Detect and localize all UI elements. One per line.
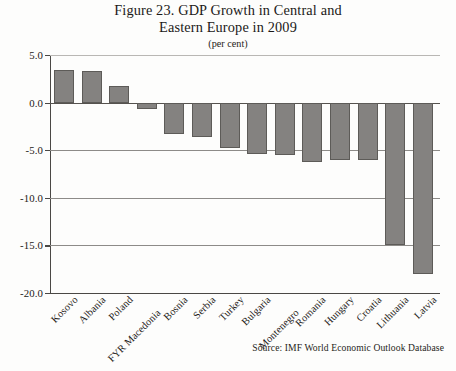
- y-axis-tickmark: [45, 55, 50, 56]
- gridline-5-0: [50, 55, 440, 56]
- bar-romania: [302, 103, 322, 162]
- y-axis-tickmark: [45, 150, 50, 151]
- figure-subtitle: (per cent): [0, 37, 456, 51]
- bar-bulgaria: [247, 103, 267, 154]
- y-axis-line: [50, 55, 51, 293]
- y-axis-tickmark: [45, 198, 50, 199]
- source-note: Source: IMF World Economic Outlook Datab…: [252, 342, 444, 353]
- page-title-line-1: Figure 23. GDP Growth in Central and: [0, 2, 456, 19]
- bar-serbia: [192, 103, 212, 137]
- x-axis-label-serbia: Serbia: [191, 294, 218, 321]
- y-axis-tickmark: [45, 245, 50, 246]
- x-axis-label-albania: Albania: [76, 294, 107, 325]
- gridline--15-0: [50, 245, 440, 246]
- y-axis-tick-label: 5.0: [29, 49, 43, 61]
- plot-area: 5.00.0-5.0-10.0-15.0-20.0: [50, 55, 440, 293]
- bar-croatia: [358, 103, 378, 160]
- y-axis-tick-label: -10.0: [20, 192, 43, 204]
- bar-poland: [109, 86, 129, 102]
- gridline--5-0: [50, 150, 440, 151]
- bar-albania: [82, 71, 102, 102]
- x-axis-label-latvia: Latvia: [412, 294, 439, 321]
- bar-kosovo: [54, 70, 74, 102]
- x-axis-label-bosnia: Bosnia: [162, 294, 190, 322]
- x-axis-label-bulgaria: Bulgaria: [240, 294, 273, 327]
- y-axis-tick-label: -20.0: [20, 287, 43, 299]
- bar-bosnia: [164, 103, 184, 134]
- figure-title-block: Figure 23. GDP Growth in Central and Eas…: [0, 2, 456, 51]
- bar-lithuania: [385, 103, 405, 246]
- y-axis-tick-label: -5.0: [26, 144, 44, 156]
- x-axis-label-kosovo: Kosovo: [49, 294, 80, 325]
- x-axis-label-poland: Poland: [107, 294, 135, 322]
- figure-container: Figure 23. GDP Growth in Central and Eas…: [0, 0, 456, 371]
- y-axis-tick-label: 0.0: [29, 97, 43, 109]
- gridline--10-0: [50, 198, 440, 199]
- bar-turkey: [220, 103, 240, 149]
- bar-hungary: [330, 103, 350, 160]
- x-axis-label-hungary: Hungary: [322, 294, 356, 328]
- bar-montenegro: [275, 103, 295, 155]
- bar-fyr-macedonia: [137, 103, 157, 110]
- y-axis-tickmark: [45, 103, 50, 104]
- page-title-line-2: Eastern Europe in 2009: [0, 19, 456, 36]
- bar-latvia: [413, 103, 433, 274]
- gridline-0-0: [50, 103, 440, 104]
- x-axis-label-romania: Romania: [294, 294, 329, 329]
- y-axis-tick-label: -15.0: [20, 239, 43, 251]
